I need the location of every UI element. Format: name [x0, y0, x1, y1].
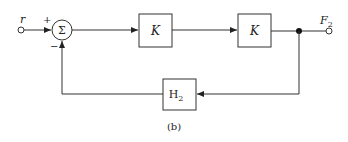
figure-caption: (b) — [167, 121, 181, 132]
input-label: r — [20, 13, 26, 26]
input-terminal — [18, 27, 24, 33]
feedback-line-left — [62, 41, 163, 94]
gain-block-2-label: K — [249, 24, 260, 38]
output-label: F2 — [319, 14, 333, 29]
minus-sign: − — [50, 41, 58, 52]
plus-sign: + — [43, 14, 51, 25]
gain-block-1-label: K — [150, 24, 161, 38]
block-diagram: r + − Σ K K F2 H2 (b) — [0, 0, 348, 142]
sum-symbol: Σ — [58, 24, 66, 37]
